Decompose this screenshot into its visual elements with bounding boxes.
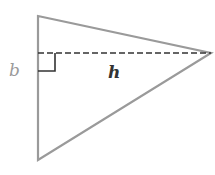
right-angle-marker xyxy=(38,53,55,71)
triangle-diagram: b h xyxy=(0,0,215,175)
triangle-outline xyxy=(38,16,211,160)
height-label: h xyxy=(108,62,120,82)
base-label: b xyxy=(9,60,20,80)
